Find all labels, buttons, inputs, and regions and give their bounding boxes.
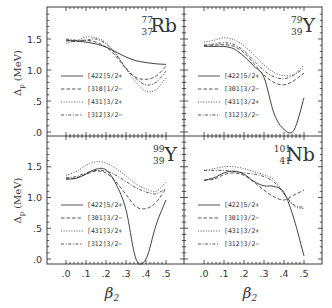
svg-text:101: 101	[274, 144, 291, 154]
legend-label: [422]5/2+	[224, 201, 259, 209]
x-tick-label: .5	[299, 268, 308, 279]
y-tick-label: 1.5	[27, 161, 42, 172]
series-line-solid	[66, 40, 166, 64]
svg-text:Rb: Rb	[151, 14, 177, 36]
x-tick-label: .1	[219, 268, 228, 279]
svg-text:99: 99	[153, 144, 165, 154]
x-tick-label: .4	[141, 268, 150, 279]
legend-label: [431]3/2+	[224, 98, 259, 106]
legend-label: [312]3/2−	[224, 240, 259, 248]
legend-label: [301]3/2−	[87, 214, 122, 222]
x-tick-label: .3	[259, 268, 268, 279]
legend-label: [301]3/2−	[224, 85, 259, 93]
y-tick-label: .5	[33, 223, 42, 234]
svg-text:39: 39	[291, 27, 303, 37]
y-tick-label: 1.5	[27, 34, 42, 45]
legend-label: [312]3/2−	[224, 111, 259, 119]
x-tick-label: .1	[81, 268, 90, 279]
x-tick-label: .5	[161, 268, 170, 279]
x-axis-title: β2	[242, 284, 258, 303]
series-line-dashed	[204, 173, 304, 200]
y-tick-label: 1.0	[27, 192, 42, 203]
svg-text:37: 37	[142, 27, 154, 37]
x-tick-label: .0	[199, 268, 208, 279]
legend-label: [431]3/2+	[224, 227, 259, 235]
svg-text:77: 77	[142, 15, 154, 25]
nucleus-label: Y7939	[291, 14, 315, 37]
legend-label: [431]3/2+	[87, 98, 122, 106]
svg-text:Δp(MeV): Δp(MeV)	[12, 178, 26, 224]
x-tick-label: .3	[121, 268, 130, 279]
svg-text:Y: Y	[301, 14, 315, 36]
x-tick-label: .2	[101, 268, 110, 279]
y-tick-label: 1.0	[27, 65, 42, 76]
x-tick-label: .0	[61, 268, 70, 279]
y-axis-title: Δp(MeV)	[12, 50, 26, 96]
svg-text:79: 79	[291, 15, 303, 25]
series-line-dotted	[66, 37, 166, 92]
svg-text:39: 39	[153, 156, 165, 166]
legend-label: [301]3/2−	[224, 214, 259, 222]
legend-label: [312]3/2−	[87, 111, 122, 119]
x-tick-label: .4	[279, 268, 288, 279]
svg-text:Y: Y	[163, 143, 177, 165]
x-axis-title: β2	[104, 284, 120, 303]
nucleus-label: Y9939	[153, 143, 177, 166]
y-axis-title: Δp(MeV)	[12, 178, 26, 224]
legend-label: [431]3/2+	[87, 227, 122, 235]
y-tick-label: .0	[33, 254, 42, 265]
legend-label: [422]5/2+	[87, 201, 122, 209]
x-tick-label: .2	[239, 268, 248, 279]
pairing-gap-chart: 1.51.0.5.0Δp(MeV)1.51.0.5.0Δp(MeV).0.1.2…	[0, 0, 332, 308]
y-tick-label: .0	[33, 127, 42, 138]
legend-label: [312]3/2−	[87, 240, 122, 248]
y-tick-label: .5	[33, 96, 42, 107]
legend-label: [310]1/2−	[87, 85, 122, 93]
svg-text:Δp(MeV): Δp(MeV)	[12, 50, 26, 96]
legend-label: [422]5/2+	[224, 72, 259, 80]
nucleus-label: Rb7737	[142, 14, 177, 37]
nucleus-label: Nb10141	[274, 143, 315, 166]
legend-label: [422]5/2+	[87, 72, 122, 80]
svg-text:41: 41	[280, 156, 291, 166]
